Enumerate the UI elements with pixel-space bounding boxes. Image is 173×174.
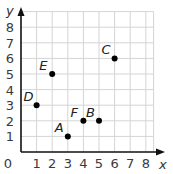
y-tick-label: 6 [6,51,14,66]
x-tick-label: 2 [48,156,56,171]
y-tick-label: 7 [6,36,14,51]
y-tick-labels: 12345678 [6,20,14,144]
y-tick-label: 2 [6,114,14,129]
point-label: E [39,58,48,73]
y-tick-label: 8 [6,20,14,35]
x-axis-arrow-icon [156,149,165,156]
y-tick-label: 5 [6,67,14,82]
grid-lines [21,12,154,152]
point-marker-icon [96,118,102,124]
point-marker-icon [112,55,118,61]
coordinate-grid: x y 012345678 12345678 ABCDEF [0,0,173,174]
x-tick-labels: 012345678 [4,156,150,171]
y-axis-label: y [5,3,14,18]
x-tick-label: 5 [95,156,103,171]
x-tick-label: 0 [4,156,12,171]
x-tick-label: 7 [126,156,134,171]
x-tick-label: 6 [110,156,118,171]
y-tick-label: 1 [6,129,14,144]
x-tick-label: 4 [79,156,87,171]
point-label: C [102,42,112,57]
plotted-points: ABCDEF [24,42,118,139]
point-marker-icon [65,133,71,139]
point-label: A [54,120,64,135]
point-marker-icon [80,118,86,124]
x-tick-label: 8 [142,156,150,171]
point-label: B [86,105,95,120]
point-label: D [24,89,34,104]
x-tick-label: 3 [64,156,72,171]
x-tick-label: 1 [32,156,40,171]
axes [18,7,166,156]
point-marker-icon [34,102,40,108]
x-axis-label: x [158,157,167,172]
point-label: F [70,105,78,120]
point-marker-icon [49,71,55,77]
y-tick-label: 3 [6,98,14,113]
y-tick-label: 4 [6,83,14,98]
